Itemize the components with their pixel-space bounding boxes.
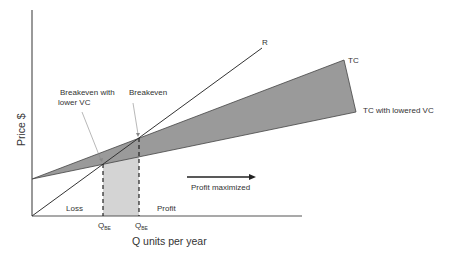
x-axis-label: Q units per year bbox=[132, 235, 207, 247]
tick-q-be: QBE bbox=[135, 221, 149, 231]
y-axis-label: Price $ bbox=[15, 113, 27, 146]
tick-q-be-lower-vc: QBE bbox=[98, 221, 112, 231]
tc-wedge bbox=[32, 60, 356, 179]
breakeven-leader-arrowhead bbox=[136, 133, 140, 137]
tc-lowered-label: TC with lowered VC bbox=[363, 106, 434, 115]
arrowhead-icon bbox=[249, 174, 256, 180]
breakeven-label: Breakeven bbox=[129, 88, 167, 97]
breakeven-lower-vc-label-2: lower VC bbox=[58, 98, 91, 107]
breakeven-diagram: R TC TC with lowered VC Breakeven with l… bbox=[0, 0, 449, 261]
profit-maximized-label: Profit maximized bbox=[191, 183, 250, 192]
breakeven-leader bbox=[133, 103, 138, 134]
breakeven-lower-vc-leader bbox=[82, 112, 101, 160]
profit-label: Profit bbox=[157, 204, 176, 213]
revenue-label: R bbox=[262, 38, 268, 47]
loss-label: Loss bbox=[66, 204, 83, 213]
tc-label: TC bbox=[348, 56, 359, 65]
breakeven-lower-vc-label-1: Breakeven with bbox=[60, 88, 115, 97]
